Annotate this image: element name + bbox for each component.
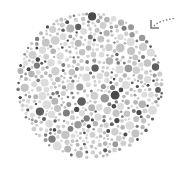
dotted-curved-arrow-icon bbox=[0, 0, 178, 169]
